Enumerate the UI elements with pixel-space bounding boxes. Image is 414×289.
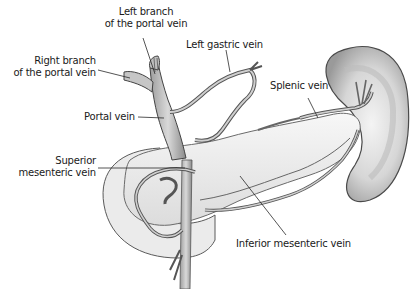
- label-inferior-mesenteric-vein: Inferior mesenteric vein: [236, 238, 351, 250]
- label-splenic-vein: Splenic vein: [270, 80, 328, 92]
- left-gastric-vein: [170, 62, 262, 141]
- label-right-branch-line2: of the portal vein: [0, 67, 96, 79]
- label-left-branch: Left branch of the portal vein: [96, 6, 196, 30]
- label-right-branch: Right branch of the portal vein: [0, 55, 96, 79]
- label-left-branch-line1: Left branch: [96, 6, 196, 18]
- leader-left-branch: [143, 38, 155, 74]
- label-left-branch-line2: of the portal vein: [96, 18, 196, 30]
- label-superior-mesenteric-vein: Superior mesenteric vein: [0, 155, 96, 179]
- label-superior-mesenteric-line2: mesenteric vein: [0, 167, 96, 179]
- label-superior-mesenteric-line1: Superior: [0, 155, 96, 167]
- right-branch-portal-vein: [124, 71, 153, 92]
- leader-left-gastric: [226, 50, 230, 72]
- portal-venous-system-diagram: Left branch of the portal vein Right bra…: [0, 0, 414, 289]
- label-portal-vein: Portal vein: [40, 111, 135, 123]
- label-right-branch-line1: Right branch: [0, 55, 96, 67]
- label-left-gastric-vein: Left gastric vein: [186, 39, 263, 51]
